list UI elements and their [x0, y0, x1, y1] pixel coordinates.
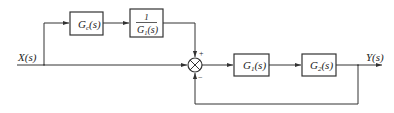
g1-block: G1(s) — [234, 54, 269, 76]
svg-text:G1(s): G1(s) — [243, 59, 266, 73]
input-label: X(s) — [17, 51, 37, 64]
inverse-g1-block: 1 G1(s) — [130, 9, 163, 37]
inv-g1-numerator: 1 — [144, 12, 149, 22]
g1-main: G — [243, 59, 251, 71]
inv-g1-den-main: G — [137, 24, 144, 35]
svg-text:G1(s): G1(s) — [137, 24, 159, 36]
g2-arg: (s) — [321, 59, 333, 72]
invg1-to-junction-line — [163, 23, 195, 57]
g1-arg: (s) — [254, 59, 266, 72]
junction-plus-sign: + — [199, 49, 204, 58]
branch-point — [43, 64, 45, 66]
summing-junction — [188, 58, 202, 72]
inv-g1-den-arg: (s) — [147, 24, 158, 36]
feedback-takeoff-point — [357, 64, 359, 66]
g2-main: G — [310, 59, 318, 71]
gc-main: G — [78, 18, 86, 30]
feedforward-branch-line — [44, 23, 69, 65]
junction-minus-sign: − — [198, 73, 203, 82]
gc-arg: (s) — [89, 18, 101, 31]
g2-block: G2(s) — [302, 54, 336, 76]
output-label: Y(s) — [366, 51, 384, 64]
block-diagram: X(s) Gc(s) 1 G1(s) + − G1(s) — [0, 0, 394, 113]
svg-text:Gc(s): Gc(s) — [78, 18, 101, 32]
gc-block: Gc(s) — [70, 12, 103, 35]
svg-text:G2(s): G2(s) — [310, 59, 333, 73]
